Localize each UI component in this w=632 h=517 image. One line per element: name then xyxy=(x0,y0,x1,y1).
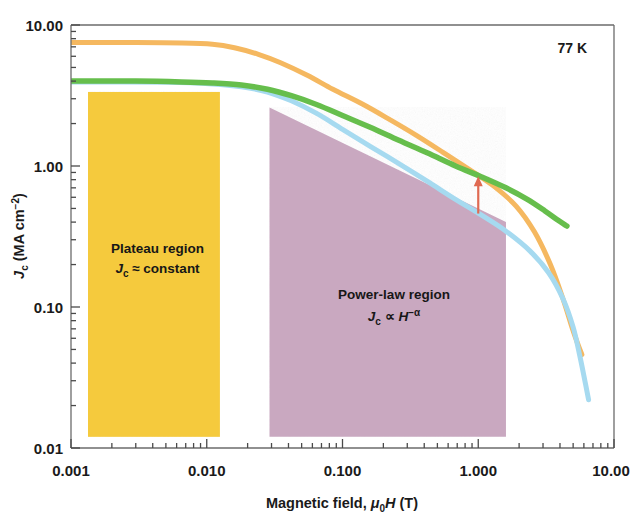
y-axis-title: Jc (MA cm−2) xyxy=(10,193,30,279)
y-axis-title-close: ) xyxy=(11,193,27,198)
y-tick-label: 1.00 xyxy=(34,158,63,175)
power-formula-H: H xyxy=(398,309,408,324)
power-formula-exp: −α xyxy=(408,307,421,318)
x-axis-title-unit: (T) xyxy=(396,495,419,511)
plateau-region-title: Plateau region xyxy=(111,241,204,256)
power-formula-prop: ∝ xyxy=(381,309,399,324)
x-tick-label: 1.000 xyxy=(459,462,497,479)
y-axis-tick-labels: 10.00 1.00 0.10 0.01 xyxy=(25,17,63,457)
x-axis-title-prefix: Magnetic field, xyxy=(266,495,371,511)
plateau-formula-rest: ≈ constant xyxy=(128,261,200,276)
x-tick-label: 0.010 xyxy=(188,462,226,479)
x-axis-title-mu: μ xyxy=(370,495,380,511)
y-axis-title-unit: (MA cm xyxy=(11,209,27,265)
x-axis-title-H: H xyxy=(385,495,396,511)
y-tick-label: 0.10 xyxy=(34,299,63,316)
x-axis-tick-labels: 0.001 0.010 0.100 1.000 10.00 xyxy=(52,462,630,479)
x-axis-title: Magnetic field, μ0H (T) xyxy=(266,495,418,514)
y-tick-label: 10.00 xyxy=(25,17,63,34)
power-law-region-title: Power-law region xyxy=(338,287,450,302)
temperature-label: 77 K xyxy=(557,40,587,56)
y-axis-title-exp: −2 xyxy=(10,198,21,210)
x-tick-label: 10.00 xyxy=(592,462,630,479)
x-tick-label: 0.100 xyxy=(324,462,362,479)
x-tick-label: 0.001 xyxy=(52,462,90,479)
y-tick-label: 0.01 xyxy=(34,440,63,457)
figure-container: 10.00 1.00 0.10 0.01 0.001 0.010 0.100 1… xyxy=(0,0,632,517)
jc-vs-magnetic-field-chart: 10.00 1.00 0.10 0.01 0.001 0.010 0.100 1… xyxy=(0,0,632,517)
